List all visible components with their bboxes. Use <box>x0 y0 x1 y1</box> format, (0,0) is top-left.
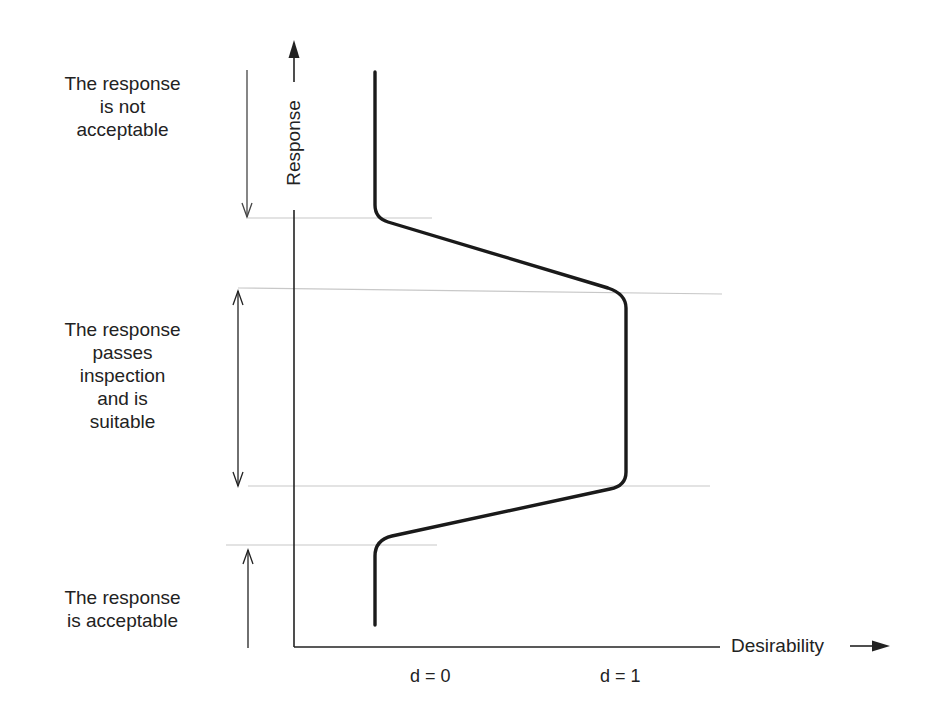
desirability-curve <box>375 72 626 625</box>
zone-label-line: acceptable <box>20 118 225 141</box>
zone-label-suitable: The response passes inspection and is su… <box>20 318 225 433</box>
zone-label-not-acceptable: The response is not acceptable <box>20 72 225 141</box>
not-acceptable-arrow <box>242 70 252 217</box>
zone-label-line: is not <box>20 95 225 118</box>
tick-label-d0: d = 0 <box>410 666 451 687</box>
x-axis-label: Desirability <box>731 635 824 657</box>
zone-label-line: passes <box>20 341 225 364</box>
zone-label-acceptable: The response is acceptable <box>20 586 225 632</box>
guide-line-target-upper <box>238 288 722 294</box>
zone-label-line: The response <box>20 318 225 341</box>
zone-label-line: and is <box>20 387 225 410</box>
zone-label-line: is acceptable <box>20 609 225 632</box>
y-axis-arrow-icon <box>289 40 300 58</box>
acceptable-arrow <box>243 550 253 648</box>
zone-label-line: The response <box>20 586 225 609</box>
y-axis-label: Response <box>283 96 305 190</box>
zone-label-line: inspection <box>20 364 225 387</box>
x-axis-arrow-icon <box>872 641 890 652</box>
zone-label-line: The response <box>20 72 225 95</box>
suitable-range-arrow <box>233 291 243 486</box>
zone-label-line: suitable <box>20 410 225 433</box>
tick-label-d1: d = 1 <box>600 666 641 687</box>
